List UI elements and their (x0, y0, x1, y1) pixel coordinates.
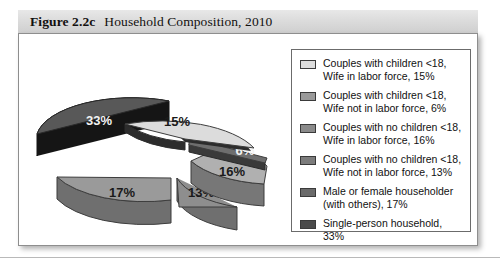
legend-swatch-icon (300, 156, 316, 165)
legend-item[interactable]: Single-person household, 33% (300, 217, 464, 242)
pie-label-16: 16% (219, 164, 245, 179)
legend-swatch-icon (300, 60, 316, 69)
page-title: Figure 2.2cHousehold Composition, 2010 (18, 14, 272, 30)
pie-label-33: 33% (86, 113, 112, 128)
legend-item[interactable]: Couples with no children <18, Wife in la… (300, 121, 464, 146)
legend-item-label: Couples with children <18, Wife not in l… (323, 89, 446, 114)
figure-body: 33% 17% 13% 16% (18, 33, 478, 246)
legend-item[interactable]: Male or female householder (with others)… (300, 185, 464, 210)
legend-swatch-icon (300, 188, 316, 197)
legend-item[interactable]: Couples with children <18, Wife not in l… (300, 89, 464, 114)
legend-swatch-icon (300, 220, 316, 229)
figure-number: Figure 2.2c (30, 14, 95, 29)
legend-item[interactable]: Couples with children <18, Wife in labor… (300, 57, 464, 82)
legend-item-label: Couples with no children <18, Wife not i… (323, 153, 461, 178)
figure-title-bar: Figure 2.2cHousehold Composition, 2010 (18, 10, 478, 33)
pie-chart-svg: 33% 17% 13% 16% (19, 66, 291, 246)
legend-swatch-icon (300, 124, 316, 133)
pie-label-15: 15% (164, 114, 190, 129)
legend-item-label: Single-person household, 33% (323, 217, 464, 242)
legend-item[interactable]: Couples with no children <18, Wife not i… (300, 153, 464, 178)
legend-swatch-icon (300, 92, 316, 101)
legend-item-label: Male or female householder (with others)… (323, 185, 453, 210)
figure-caption: Household Composition, 2010 (95, 14, 272, 29)
pie-label-17: 17% (109, 185, 135, 200)
pie-slice-male-female-householder[interactable]: 17% (57, 177, 171, 225)
legend-item-label: Couples with no children <18, Wife in la… (323, 121, 461, 146)
chart-legend: Couples with children <18, Wife in labor… (291, 49, 471, 232)
legend-item-label: Couples with children <18, Wife in labor… (323, 57, 446, 82)
pie-chart: 33% 17% 13% 16% (19, 66, 291, 246)
page-divider (0, 257, 500, 258)
